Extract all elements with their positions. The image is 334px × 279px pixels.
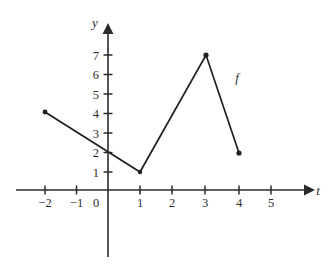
curve-f-path	[45, 55, 239, 172]
vertex-dot-min	[138, 170, 142, 174]
function-graph-figure: −2 −1 0 1 2 3 4 5 1 2 3 4 5 6 7 t y	[0, 0, 334, 279]
y-tick-label-6: 6	[93, 68, 99, 82]
x-tick-label--1: −1	[70, 196, 83, 210]
x-axis-arrow-icon	[304, 185, 315, 196]
y-tick-label-2: 2	[93, 146, 99, 160]
y-tick-label-1: 1	[93, 166, 99, 180]
curve-f	[43, 52, 242, 174]
y-axis-label: y	[90, 15, 98, 30]
y-tick-label-3: 3	[93, 127, 99, 141]
y-tick-label-4: 4	[93, 107, 100, 121]
x-tick-label-0: 0	[93, 196, 99, 210]
y-tick-label-5: 5	[93, 88, 99, 102]
x-tick-label-3: 3	[202, 196, 208, 210]
y-axis-arrow-icon	[103, 23, 114, 34]
x-tick-label-5: 5	[268, 196, 274, 210]
endpoint-dot-right	[236, 150, 241, 155]
x-tick-label-4: 4	[236, 196, 243, 210]
x-tick-label-2: 2	[169, 196, 175, 210]
y-tick-label-7: 7	[93, 49, 99, 63]
vertex-dot-peak	[203, 52, 208, 57]
y-tick-labels: 1 2 3 4 5 6 7	[93, 49, 100, 180]
plot-canvas: −2 −1 0 1 2 3 4 5 1 2 3 4 5 6 7 t y	[0, 0, 334, 279]
x-tick-label-1: 1	[137, 196, 143, 210]
x-tick-labels: −2 −1 0 1 2 3 4 5	[38, 196, 274, 210]
x-axis-label: t	[316, 183, 320, 198]
axes-group	[16, 23, 315, 257]
curve-label-f: f	[235, 70, 241, 85]
x-tick-label--2: −2	[38, 196, 51, 210]
endpoint-dot-left	[43, 110, 48, 115]
